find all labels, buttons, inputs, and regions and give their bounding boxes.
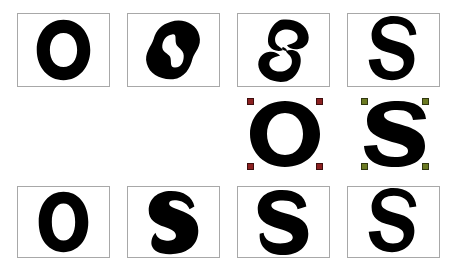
glyph-o-round [18, 14, 109, 86]
glyph-o-narrow [18, 187, 109, 257]
control-point-s-top-right[interactable] [422, 98, 429, 105]
control-point-o-top-right[interactable] [316, 98, 323, 105]
control-point-s-top-left[interactable] [361, 98, 368, 105]
cell-bot-4 [347, 186, 440, 258]
control-point-o-top-left[interactable] [247, 98, 254, 105]
cell-mid-1 [17, 97, 110, 173]
cell-top-1 [17, 13, 110, 87]
cell-mid-3 [250, 101, 320, 167]
figure-canvas [0, 0, 458, 272]
cell-bot-2 [127, 186, 220, 258]
control-point-s-bottom-left[interactable] [361, 163, 368, 170]
control-point-s-bottom-right[interactable] [422, 163, 429, 170]
control-point-o-bottom-left[interactable] [247, 163, 254, 170]
glyph-os-broken [238, 14, 329, 86]
cell-top-2 [127, 13, 220, 87]
cell-bot-1 [17, 186, 110, 258]
glyph-s-plain [348, 14, 439, 86]
glyph-s-bold [364, 101, 426, 167]
cell-mid-4 [364, 101, 426, 167]
cell-bot-3 [237, 186, 330, 258]
glyph-o-blob [128, 14, 219, 86]
glyph-s-plain-2 [348, 187, 439, 257]
glyph-s-fat [128, 187, 219, 257]
control-point-o-bottom-right[interactable] [316, 163, 323, 170]
cell-mid-2 [127, 97, 220, 173]
glyph-o-bold [250, 101, 320, 167]
glyph-s-heavy [238, 187, 329, 257]
cell-top-4 [347, 13, 440, 87]
cell-top-3 [237, 13, 330, 87]
